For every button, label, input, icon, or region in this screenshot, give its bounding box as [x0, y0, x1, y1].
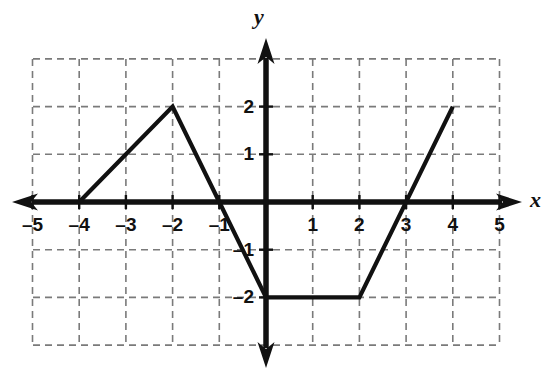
plot-canvas [0, 0, 545, 375]
x-tick-label: –5 [11, 215, 55, 234]
x-tick-label: 2 [337, 215, 381, 234]
x-tick-label: 5 [478, 215, 522, 234]
y-tick-label: –1 [210, 240, 254, 259]
y-tick-label: 2 [210, 97, 254, 116]
x-tick-label: 4 [431, 215, 475, 234]
x-axis-label: x [530, 189, 541, 211]
x-tick-label: –4 [57, 215, 101, 234]
x-tick-label: 1 [291, 215, 335, 234]
x-tick-label: –2 [151, 215, 195, 234]
y-axis-label: y [254, 6, 264, 28]
x-tick-label: 3 [384, 215, 428, 234]
axes-layer [12, 38, 522, 368]
x-tick-label: –3 [104, 215, 148, 234]
y-tick-label: 1 [210, 144, 254, 163]
coordinate-graph: –5–4–3–2–11234521–1–2 x y [0, 0, 545, 375]
y-tick-label: –2 [210, 287, 254, 306]
x-tick-label: –1 [197, 215, 241, 234]
